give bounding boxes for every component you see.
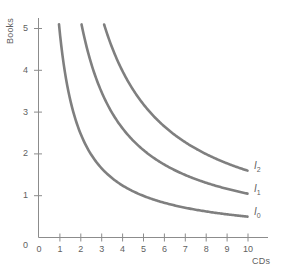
x-tick-label-3: 3 xyxy=(95,244,109,254)
x-tick-label-8: 8 xyxy=(199,244,213,254)
x-tick-label-6: 6 xyxy=(157,244,171,254)
y-tick-label-2: 2 xyxy=(14,148,28,158)
x-tick-label-1: 1 xyxy=(53,244,67,254)
indifference-curves xyxy=(59,24,248,216)
curve-label-i0: I0 xyxy=(254,206,261,219)
curve-label-i2-sub: 2 xyxy=(257,166,261,173)
curve-label-i0-sub: 0 xyxy=(257,212,261,219)
x-tick-label-10: 10 xyxy=(241,244,255,254)
indifference-curve-I1 xyxy=(82,24,248,193)
y-tick-label-1: 1 xyxy=(14,190,28,200)
curve-label-i1: I1 xyxy=(254,183,261,196)
y-tick-label-5: 5 xyxy=(14,23,28,33)
x-tick-label-9: 9 xyxy=(220,244,234,254)
x-tick-label-4: 4 xyxy=(116,244,130,254)
x-tick-label-7: 7 xyxy=(178,244,192,254)
chart-plot-area xyxy=(0,0,285,279)
x-tick-label-5: 5 xyxy=(137,244,151,254)
y-tick-label-4: 4 xyxy=(14,65,28,75)
x-tick-label-2: 2 xyxy=(74,244,88,254)
y-tick-label-3: 3 xyxy=(14,107,28,117)
curve-label-i1-sub: 1 xyxy=(257,189,261,196)
x-tick-label-0: 0 xyxy=(32,244,46,254)
x-axis-title: CDs xyxy=(252,256,270,266)
indifference-curve-chart: Books CDs 5 4 3 2 1 0 0 1 2 3 4 5 6 7 8 … xyxy=(0,0,285,279)
indifference-curve-I2 xyxy=(104,25,247,171)
y-tick-label-0: 0 xyxy=(14,240,28,250)
curve-label-i2: I2 xyxy=(254,160,261,173)
